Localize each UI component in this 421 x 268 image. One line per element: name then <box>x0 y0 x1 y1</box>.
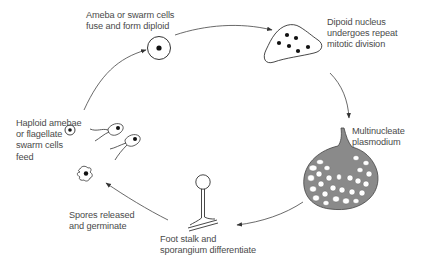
arrow-mitosis-to-plasmodium <box>330 73 349 118</box>
label-spores-released: Spores released and germinate <box>69 210 134 232</box>
label-diploid-mitotic-division: Dipoid nucleus undergoes repeat mitotic … <box>327 17 397 51</box>
arrow-haploid-to-fuse <box>84 50 146 110</box>
arrow-plasmodium-to-sporangium <box>237 202 303 225</box>
multinucleate-cell-icon <box>264 25 322 63</box>
sporangium-icon <box>188 175 218 231</box>
label-foot-stalk-sporangium: Foot stalk and sporangium differentiate <box>160 234 256 256</box>
flagellate-nucleus-icon <box>133 137 137 141</box>
arrow-fuse-to-mitosis <box>175 25 272 35</box>
label-fuse-form-diploid: Ameba or swarm cells fuse and form diplo… <box>86 10 174 32</box>
flagellate-nucleus-icon <box>116 126 120 130</box>
germinating-ameba-icon <box>77 166 92 181</box>
label-multinucleate-plasmodium: Multinucleate plasmodium <box>352 126 405 148</box>
label-haploid-amebae: Haploid amebae or flagellate swarm cells… <box>16 118 82 163</box>
diploid-cell-icon <box>148 37 171 60</box>
